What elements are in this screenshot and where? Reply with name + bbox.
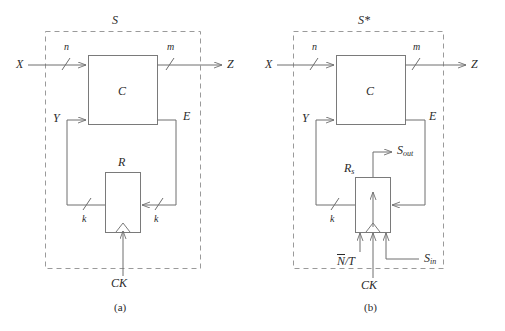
bus-width-label-k-left: k [330,214,334,224]
bus-slash-m [166,58,174,70]
panel-b [277,32,466,279]
signal-label-n-bar-t: N/T [337,254,355,267]
signal-label-e: E [183,110,190,122]
signal-label-s-out: Sout [397,144,413,158]
bus-slash-k-right [155,198,163,210]
signal-label-x: X [265,58,272,70]
bus-slash-k-left [331,198,339,210]
bus-width-label-k-right: k [154,214,158,224]
signal-label-z: Z [471,58,478,70]
signal-label-x: X [16,58,23,70]
signal-label-ck: CK [361,279,377,291]
system-label-s-star: S* [358,14,370,26]
bus-width-label-k-left: k [82,214,86,224]
bus-width-label-n: n [312,42,317,52]
signal-label-s-in: Sin [424,252,436,266]
scan-out-path [373,152,392,177]
bus-width-label-m: m [413,42,420,52]
feedback-path-e [142,120,176,205]
system-label-s: S [112,14,118,26]
block-label-c: C [366,84,374,99]
bus-slash-n [62,58,70,70]
bus-width-label-n: n [64,42,69,52]
bus-slash-n [310,58,318,70]
signal-label-ck: CK [111,277,127,289]
panel-a [28,32,222,277]
signal-label-n-bar: N [337,254,345,267]
panel-caption-b: (b) [364,301,377,313]
block-label-r: R [118,155,125,170]
block-label-c: C [118,84,126,99]
block-label-rs: Rs [344,161,354,176]
bus-slash-m [412,58,420,70]
signal-label-s-out-sub: out [403,149,413,158]
scan-in-path [386,250,419,259]
bus-slash-k-left [83,198,91,210]
figure-canvas [0,0,505,331]
signal-label-y: Y [302,112,309,124]
feedback-path-e [392,120,425,205]
bus-width-label-m: m [167,42,174,52]
panel-caption-a: (a) [114,301,126,313]
signal-label-y: Y [53,112,60,124]
signal-label-t: /T [345,254,355,268]
block-label-rs-sub: s [351,167,354,176]
signal-label-z: Z [227,58,234,70]
signal-label-e: E [429,110,436,122]
signal-label-s-in-sub: in [430,257,436,266]
feedback-path-y [67,120,105,205]
